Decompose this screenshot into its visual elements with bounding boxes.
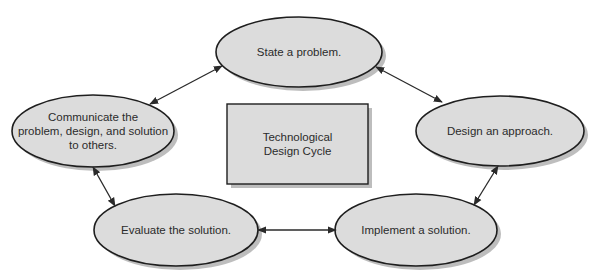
center-box [227,104,368,184]
arrow-evaluate-communicate [93,167,115,206]
design-cycle-diagram: Technological Design Cycle State a probl… [0,0,591,279]
node-implement-solution [335,194,497,266]
arrow-design-implement [474,166,498,205]
diagram-graphics [0,0,591,279]
arrow-state-design [376,67,442,102]
node-evaluate-solution [94,194,258,266]
node-communicate [12,95,174,167]
arrow-communicate-state [150,66,222,104]
node-state-problem [216,17,382,87]
node-design-approach [416,96,584,166]
